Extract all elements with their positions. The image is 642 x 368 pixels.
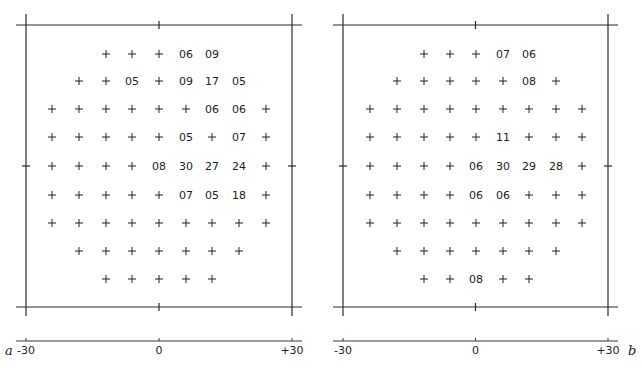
plus-marker-icon	[262, 191, 270, 199]
plus-marker-icon	[75, 133, 83, 141]
axis-tick-label: 0	[472, 344, 479, 357]
panel-letter: a	[5, 343, 13, 358]
plus-marker-icon	[155, 191, 163, 199]
plus-marker-icon	[155, 275, 163, 283]
plus-marker-icon	[155, 247, 163, 255]
plus-marker-icon	[208, 219, 216, 227]
plus-marker-icon	[499, 247, 507, 255]
plus-marker-icon	[182, 219, 190, 227]
plus-marker-icon	[208, 247, 216, 255]
plus-marker-icon	[262, 105, 270, 113]
plus-marker-icon	[393, 191, 401, 199]
threshold-value: 17	[205, 75, 219, 88]
plus-marker-icon	[393, 219, 401, 227]
plus-marker-icon	[578, 162, 586, 170]
plus-marker-icon	[420, 191, 428, 199]
plus-marker-icon	[525, 275, 533, 283]
plus-marker-icon	[578, 219, 586, 227]
threshold-value: 27	[205, 160, 219, 173]
plus-marker-icon	[128, 105, 136, 113]
plus-marker-icon	[48, 105, 56, 113]
plus-marker-icon	[366, 219, 374, 227]
panel-letter: b	[628, 343, 636, 358]
axis-tick-label: -30	[334, 344, 352, 357]
plus-marker-icon	[102, 275, 110, 283]
plus-marker-icon	[262, 219, 270, 227]
plus-marker-icon	[75, 105, 83, 113]
plus-marker-icon	[75, 77, 83, 85]
threshold-value: 05	[232, 75, 246, 88]
threshold-value: 30	[496, 160, 510, 173]
plus-marker-icon	[499, 275, 507, 283]
plus-marker-icon	[235, 219, 243, 227]
panel-a: 0609050917050606050708302724070518-300+3…	[5, 14, 304, 358]
plus-marker-icon	[262, 162, 270, 170]
plus-marker-icon	[420, 105, 428, 113]
plus-marker-icon	[446, 77, 454, 85]
axis-tick-label: -30	[17, 344, 35, 357]
plus-marker-icon	[552, 105, 560, 113]
threshold-value: 07	[232, 131, 246, 144]
plus-marker-icon	[552, 247, 560, 255]
plus-marker-icon	[155, 50, 163, 58]
threshold-value: 08	[522, 75, 536, 88]
plus-marker-icon	[102, 247, 110, 255]
plus-marker-icon	[578, 105, 586, 113]
plus-marker-icon	[128, 247, 136, 255]
visual-field-figure: 0609050917050606050708302724070518-300+3…	[0, 0, 642, 368]
plus-marker-icon	[420, 275, 428, 283]
threshold-value: 08	[469, 273, 483, 286]
plus-marker-icon	[102, 219, 110, 227]
plus-marker-icon	[128, 133, 136, 141]
plus-marker-icon	[235, 247, 243, 255]
plus-marker-icon	[446, 105, 454, 113]
plus-marker-icon	[393, 77, 401, 85]
plus-marker-icon	[446, 162, 454, 170]
axis-tick-label: 0	[156, 344, 163, 357]
plus-marker-icon	[128, 162, 136, 170]
plus-marker-icon	[420, 247, 428, 255]
plus-marker-icon	[420, 162, 428, 170]
plus-marker-icon	[366, 162, 374, 170]
plus-marker-icon	[472, 50, 480, 58]
plus-marker-icon	[393, 162, 401, 170]
plus-marker-icon	[128, 50, 136, 58]
plus-marker-icon	[499, 219, 507, 227]
plus-marker-icon	[128, 275, 136, 283]
plus-marker-icon	[420, 77, 428, 85]
plus-marker-icon	[525, 133, 533, 141]
plus-marker-icon	[155, 105, 163, 113]
plus-marker-icon	[102, 50, 110, 58]
plus-marker-icon	[525, 191, 533, 199]
threshold-value: 28	[549, 160, 563, 173]
plus-marker-icon	[102, 191, 110, 199]
threshold-value: 06	[469, 189, 483, 202]
plus-marker-icon	[102, 162, 110, 170]
plus-marker-icon	[472, 219, 480, 227]
x-axis: -300+30	[333, 338, 620, 357]
plus-marker-icon	[48, 162, 56, 170]
plus-marker-icon	[102, 133, 110, 141]
plus-marker-icon	[472, 247, 480, 255]
plus-marker-icon	[102, 105, 110, 113]
plus-marker-icon	[393, 105, 401, 113]
test-point-grid: 0609050917050606050708302724070518	[48, 48, 270, 284]
axis-tick-label: +30	[280, 344, 303, 357]
threshold-value: 18	[232, 189, 246, 202]
axis-tick-label: +30	[596, 344, 619, 357]
threshold-value: 06	[496, 189, 510, 202]
threshold-value: 30	[179, 160, 193, 173]
plus-marker-icon	[499, 105, 507, 113]
plus-marker-icon	[446, 50, 454, 58]
plus-marker-icon	[420, 219, 428, 227]
panel-b: 0706081106302928060608-300+30b	[333, 14, 636, 358]
plus-marker-icon	[75, 162, 83, 170]
plus-marker-icon	[155, 133, 163, 141]
plus-marker-icon	[552, 133, 560, 141]
plus-marker-icon	[525, 247, 533, 255]
threshold-value: 05	[179, 131, 193, 144]
threshold-value: 05	[125, 75, 139, 88]
plus-marker-icon	[48, 191, 56, 199]
threshold-value: 09	[179, 75, 193, 88]
threshold-value: 11	[496, 131, 510, 144]
